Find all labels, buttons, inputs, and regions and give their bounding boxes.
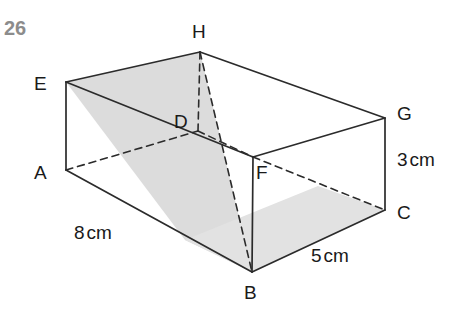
dimension-label-5cm: 5cm [311, 246, 349, 265]
edge-GF [253, 118, 385, 157]
figure-canvas: 26 ABCDEFGH 8cm5cm3cm [0, 0, 462, 316]
vertex-label-H: H [192, 22, 206, 41]
edge-FB [252, 157, 253, 272]
dimension-label-3cm-unit: cm [410, 149, 435, 170]
vertex-label-A: A [34, 163, 47, 182]
vertex-label-C: C [397, 203, 411, 222]
dimension-label-8cm-value: 8 [74, 222, 85, 243]
vertex-label-D: D [174, 112, 188, 131]
dimension-label-8cm-unit: cm [87, 222, 112, 243]
dimension-label-5cm-value: 5 [311, 245, 322, 266]
dimension-label-3cm: 3cm [397, 150, 435, 169]
dimension-label-8cm: 8cm [74, 223, 112, 242]
vertex-label-F: F [256, 163, 268, 182]
vertex-label-B: B [244, 283, 257, 302]
cuboid-diagram [0, 0, 462, 316]
edge-HG [200, 52, 385, 118]
dimension-label-5cm-unit: cm [324, 245, 349, 266]
vertex-label-E: E [34, 74, 47, 93]
vertex-label-G: G [397, 104, 412, 123]
dimension-label-3cm-value: 3 [397, 149, 408, 170]
